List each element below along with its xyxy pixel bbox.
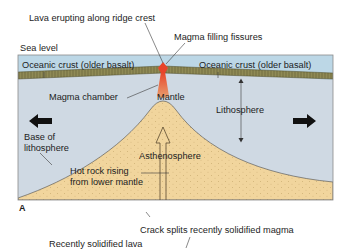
label-mantle: Mantle — [157, 92, 185, 102]
label-asthenosphere: Asthenosphere — [139, 151, 201, 161]
label-crust-left: Oceanic crust (older basalt) — [22, 60, 134, 70]
label-sea-level: Sea level — [20, 43, 58, 53]
leader-crack-splits — [186, 237, 190, 248]
panel-label: A — [19, 203, 26, 213]
leader-crack-fragment — [146, 212, 150, 217]
label-base-of-lithosphere-line1: Base of — [24, 132, 56, 142]
label-hot-rock-line2: from lower mantle — [70, 177, 143, 187]
label-crack-splits: Crack splits recently solidified magma — [140, 225, 295, 235]
label-base-of-lithosphere-line2: lithosphere — [24, 143, 69, 153]
label-lava-erupting: Lava erupting along ridge crest — [29, 13, 156, 23]
label-magma-chamber: Magma chamber — [49, 92, 118, 102]
label-hot-rock-line1: Hot rock rising — [70, 166, 129, 176]
label-lithosphere: Lithosphere — [216, 105, 264, 115]
label-magma-filling: Magma filling fissures — [174, 32, 263, 42]
seafloor-spreading-diagram: Lava erupting along ridge crest Magma fi… — [0, 0, 339, 251]
label-recently-solidified: Recently solidified lava — [49, 239, 143, 249]
label-crust-right: Oceanic crust (older basalt) — [199, 60, 311, 70]
